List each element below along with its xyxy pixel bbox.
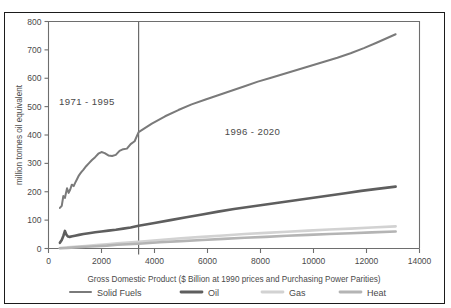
legend-label-oil: Oil [208, 288, 219, 298]
y-tick-label: 500 [27, 102, 41, 112]
y-axis-title: million tonnes oil equivalent [15, 84, 24, 185]
series-line-solid-fuels [60, 34, 396, 208]
y-tick-label: 600 [27, 73, 41, 83]
chart-svg: 0100200300400500600700800020004000600080… [0, 0, 451, 308]
legend-label-solid-fuels: Solid Fuels [97, 288, 142, 298]
x-tick-label: 8000 [251, 256, 270, 266]
x-tick-label: 14000 [408, 256, 432, 266]
legend-label-heat: Heat [367, 288, 387, 298]
x-tick-label: 2000 [92, 256, 111, 266]
legend-label-gas: Gas [289, 288, 306, 298]
y-tick-label: 200 [27, 187, 41, 197]
x-tick-label: 0 [46, 256, 51, 266]
x-axis-title: Gross Domestic Product ($ Billion at 199… [87, 275, 380, 284]
y-tick-label: 0 [37, 244, 42, 254]
y-tick-label: 700 [27, 45, 41, 55]
y-tick-label: 400 [27, 130, 41, 140]
y-tick-label: 800 [27, 17, 41, 27]
x-tick-label: 6000 [198, 256, 217, 266]
plot-annotation: 1971 - 1995 [59, 96, 115, 107]
line-chart: 0100200300400500600700800020004000600080… [0, 0, 451, 308]
x-tick-label: 10000 [302, 256, 326, 266]
plot-annotation: 1996 - 2020 [225, 126, 281, 137]
chart-figure: 0100200300400500600700800020004000600080… [0, 0, 451, 308]
x-tick-label: 4000 [145, 256, 164, 266]
x-tick-label: 12000 [355, 256, 379, 266]
y-tick-label: 300 [27, 158, 41, 168]
y-tick-label: 100 [27, 215, 41, 225]
